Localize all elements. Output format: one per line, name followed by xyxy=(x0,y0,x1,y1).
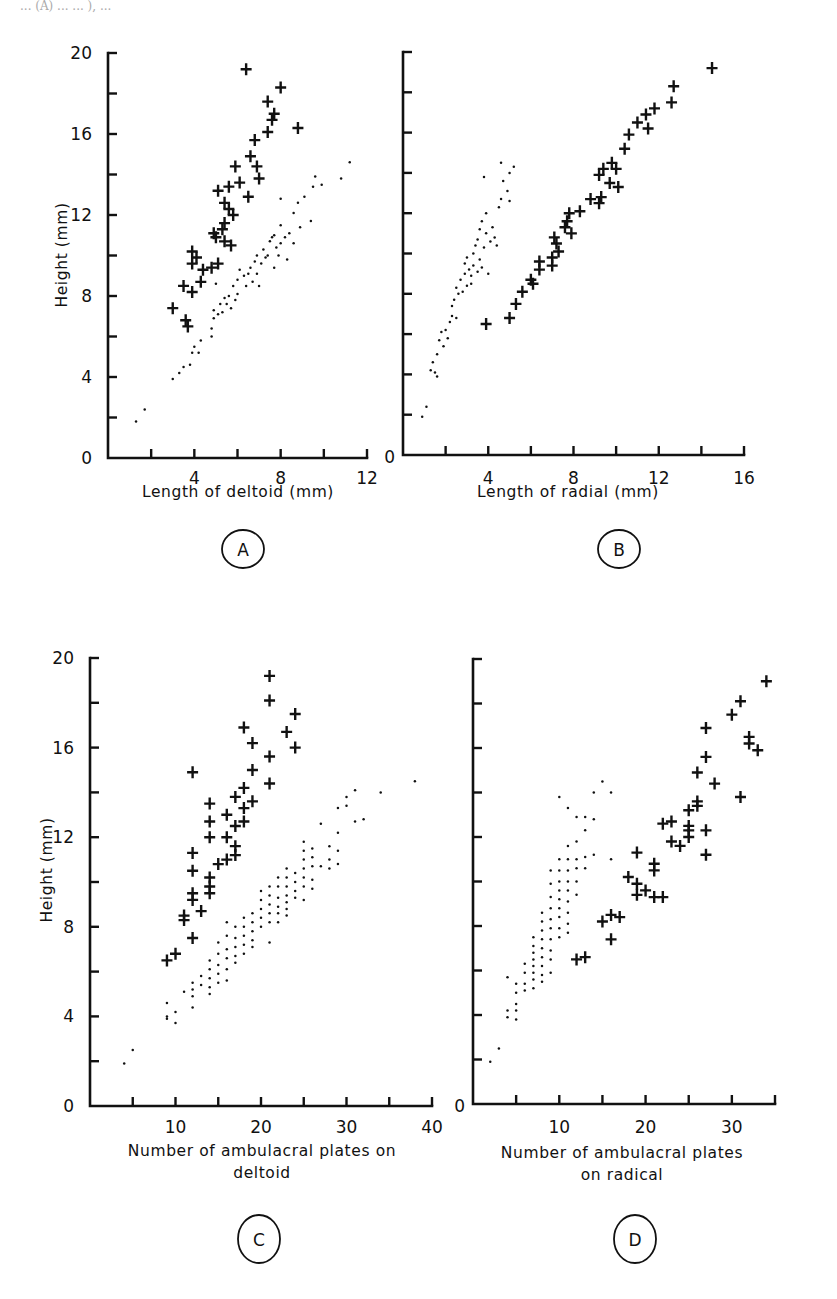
dot-marker xyxy=(575,858,578,861)
dot-marker xyxy=(268,912,271,915)
x-tick-label: 10 xyxy=(165,1117,187,1137)
dot-marker xyxy=(549,918,552,921)
plus-marker xyxy=(574,205,585,217)
dot-marker xyxy=(225,303,228,306)
dot-marker xyxy=(294,881,297,884)
y-tick-label: 16 xyxy=(70,124,92,144)
plus-marker xyxy=(657,818,668,830)
dot-marker xyxy=(549,949,552,952)
dot-marker xyxy=(285,914,288,917)
dot-marker xyxy=(354,789,357,792)
dot-marker xyxy=(166,1015,169,1018)
dot-marker xyxy=(567,807,570,810)
dot-marker xyxy=(515,992,518,995)
dot-marker xyxy=(294,890,297,893)
y-tick-label: 16 xyxy=(52,738,74,758)
dot-marker xyxy=(312,185,315,188)
plus-marker xyxy=(566,227,577,239)
panel-b-plot-area: 4812160 xyxy=(384,52,755,488)
dot-marker xyxy=(498,206,501,209)
dot-marker xyxy=(506,190,509,193)
dot-marker xyxy=(243,952,246,955)
plus-marker xyxy=(249,134,260,146)
dot-marker xyxy=(601,780,604,783)
dot-marker xyxy=(238,268,241,271)
dot-marker xyxy=(567,911,570,914)
dot-marker xyxy=(314,175,317,178)
dot-marker xyxy=(558,927,561,930)
plus-marker xyxy=(269,108,280,120)
panel-c-letter: C xyxy=(253,1230,265,1250)
series-dots xyxy=(123,780,416,1065)
panel-a-plot-area: 0481216204812 xyxy=(70,43,377,488)
dot-marker xyxy=(251,921,254,924)
plus-marker xyxy=(597,916,608,928)
dot-marker xyxy=(166,1002,169,1005)
dot-marker xyxy=(481,220,484,223)
dot-marker xyxy=(593,854,596,857)
dot-marker xyxy=(500,162,503,165)
dot-marker xyxy=(337,863,340,866)
dot-marker xyxy=(541,965,544,968)
plus-marker xyxy=(735,695,746,707)
dot-marker xyxy=(219,303,222,306)
plus-marker xyxy=(204,798,215,810)
dot-marker xyxy=(303,899,306,902)
dot-marker xyxy=(174,1022,177,1025)
dot-marker xyxy=(337,849,340,852)
dot-marker xyxy=(217,952,220,955)
dot-marker xyxy=(279,242,282,245)
plus-marker xyxy=(243,191,254,203)
dot-marker xyxy=(487,272,490,275)
dot-marker xyxy=(226,935,229,938)
plus-marker xyxy=(752,744,763,756)
dot-marker xyxy=(226,921,229,924)
dot-marker xyxy=(549,958,552,961)
dot-marker xyxy=(178,372,181,375)
dot-marker xyxy=(285,876,288,879)
x-tick-label: 10 xyxy=(548,1117,570,1137)
y-tick-label: 8 xyxy=(63,917,74,937)
dot-marker xyxy=(515,1009,518,1012)
dot-marker xyxy=(449,321,452,324)
dot-marker xyxy=(299,226,302,229)
dot-marker xyxy=(459,278,462,281)
dot-marker xyxy=(200,339,203,342)
dot-marker xyxy=(279,224,282,227)
dot-marker xyxy=(297,202,300,205)
dot-marker xyxy=(515,1003,518,1006)
dot-marker xyxy=(478,258,481,261)
dot-marker xyxy=(251,930,254,933)
plus-marker xyxy=(262,126,273,138)
dot-marker xyxy=(234,955,237,958)
dot-marker xyxy=(328,858,331,861)
dot-marker xyxy=(489,240,492,243)
dot-marker xyxy=(532,965,535,968)
dot-marker xyxy=(303,849,306,852)
dot-marker xyxy=(584,829,587,832)
plus-marker xyxy=(683,831,694,843)
origin-label: 0 xyxy=(384,447,395,467)
dot-marker xyxy=(379,791,382,794)
dot-marker xyxy=(217,982,220,985)
plus-marker xyxy=(178,280,189,292)
dot-marker xyxy=(275,246,278,249)
dot-marker xyxy=(567,858,570,861)
dot-marker xyxy=(258,285,261,288)
dot-marker xyxy=(260,917,263,920)
dot-marker xyxy=(532,951,535,954)
dot-marker xyxy=(515,983,518,986)
series-crosses xyxy=(161,670,300,966)
dot-marker xyxy=(277,921,280,924)
plus-marker xyxy=(204,831,215,843)
dot-marker xyxy=(191,1006,194,1009)
dot-marker xyxy=(481,266,484,269)
panel-a-y-axis-label: Height (mm) xyxy=(53,202,71,307)
dot-marker xyxy=(269,240,272,243)
dot-marker xyxy=(277,896,280,899)
plus-marker xyxy=(187,932,198,944)
dot-marker xyxy=(210,327,213,330)
dot-marker xyxy=(208,968,211,971)
dot-marker xyxy=(234,299,237,302)
plus-marker xyxy=(744,738,755,750)
